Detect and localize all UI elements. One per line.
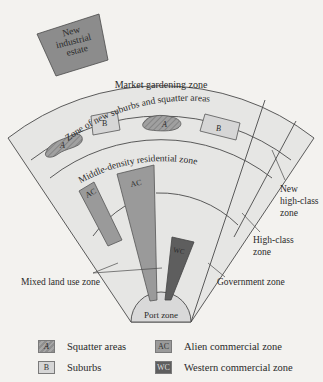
- squatter-label-center: A: [161, 120, 167, 129]
- western-swatch-icon: WC: [155, 361, 172, 374]
- industrial-estate: New industrial estate: [37, 14, 108, 76]
- suburbs-swatch-icon: B: [38, 361, 55, 374]
- legend-label-western: Western commercial zone: [184, 362, 293, 373]
- squatter-label-left: A: [59, 141, 65, 150]
- port-zone-label: Port zone: [144, 310, 178, 320]
- city-model-diagram: New industrial estate A A B B AC AC WC: [0, 0, 323, 382]
- high-class-label: High-class zone: [253, 235, 296, 257]
- legend-label-squatter: Squatter areas: [67, 341, 126, 352]
- legend-item-alien: AC Alien commercial zone: [155, 340, 282, 353]
- legend-label-alien: Alien commercial zone: [184, 341, 282, 352]
- legend: A Squatter areas B Suburbs AC Alien comm…: [0, 338, 323, 382]
- legend-item-squatter: A Squatter areas: [38, 340, 126, 353]
- legend-item-suburbs: B Suburbs: [38, 361, 101, 374]
- mixed-land-use-label: Mixed land use zone: [21, 277, 100, 287]
- suburb-label-right: B: [216, 124, 221, 133]
- new-high-class-label: New high-class zone: [280, 184, 321, 218]
- legend-item-western: WC Western commercial zone: [155, 361, 293, 374]
- market-gardening-label: Market gardening zone: [115, 79, 208, 90]
- squatter-swatch-icon: A: [38, 340, 55, 353]
- alien-swatch-icon: AC: [155, 340, 172, 353]
- government-zone-label: Government zone: [217, 277, 285, 287]
- legend-label-suburbs: Suburbs: [67, 362, 101, 373]
